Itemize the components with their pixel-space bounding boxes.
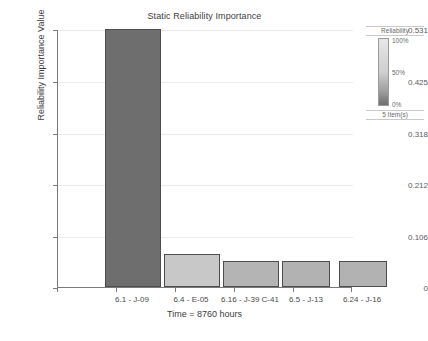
colorbar-tick-100: 100% — [392, 37, 409, 44]
x-tick-mark — [293, 288, 294, 292]
x-tick-label-2: 6.16 - J-39 C-41 — [221, 295, 279, 304]
x-tick-mark — [175, 288, 176, 292]
y-tick-mark — [53, 237, 57, 238]
y-tick-mark — [53, 185, 57, 186]
plot-area — [57, 30, 352, 288]
y-tick-label-5: 0 — [380, 284, 428, 293]
x-tick-label-1: 6.4 - E-05 — [173, 295, 208, 304]
bar-2[interactable] — [223, 261, 279, 287]
static-reliability-importance-chart: Static Reliability Importance 0.531 0.42… — [0, 0, 428, 341]
y-tick-label-2: 0.318 — [380, 129, 428, 138]
reliability-colorbar[interactable] — [378, 38, 389, 106]
bar-0[interactable] — [105, 29, 161, 287]
gridline — [58, 134, 353, 135]
colorbar-tick-50: 50% — [392, 69, 405, 76]
y-tick-mark — [53, 134, 57, 135]
colorbar-tick-0: 0% — [392, 101, 401, 108]
x-tick-mark — [234, 288, 235, 292]
x-tick-label-4: 6.24 - J-16 — [343, 295, 381, 304]
y-tick-mark — [53, 30, 57, 31]
bar-3[interactable] — [282, 261, 330, 287]
gridline — [58, 30, 353, 31]
legend-item-count: 5 Item(s) — [366, 110, 424, 120]
x-tick-label-3: 6.5 - J-13 — [289, 295, 323, 304]
y-tick-mark — [53, 82, 57, 83]
x-tick-mark — [116, 288, 117, 292]
reliability-legend[interactable]: Reliability 100% 50% 0% 5 Item(s) — [366, 26, 424, 120]
y-tick-label-3: 0.212 — [380, 181, 428, 190]
gridline — [58, 237, 353, 238]
gridline — [58, 185, 353, 186]
x-tick-mark — [57, 288, 58, 292]
bar-1[interactable] — [164, 254, 220, 287]
legend-title: Reliability — [366, 26, 424, 36]
y-axis-title: Reliability Importance Value — [36, 0, 46, 150]
gridline — [58, 82, 353, 83]
chart-title: Static Reliability Importance — [57, 11, 352, 21]
x-tick-label-0: 6.1 - J-09 — [115, 295, 149, 304]
x-axis-title: Time = 8760 hours — [57, 309, 352, 319]
x-tick-mark — [351, 288, 352, 292]
y-tick-label-4: 0.106 — [380, 232, 428, 241]
